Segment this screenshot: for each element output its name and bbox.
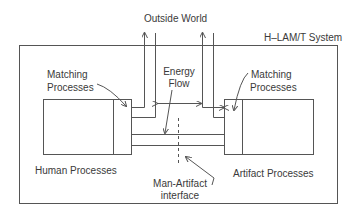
matching-left-label-1: Matching	[47, 69, 88, 81]
outside-world-label: Outside World	[144, 13, 207, 25]
energy-label-2: Flow	[158, 78, 200, 90]
interface-label-1: Man-Artifact	[140, 178, 220, 190]
human-processes-label: Human Processes	[35, 165, 117, 177]
system-title: H–LAM/T System	[264, 32, 342, 44]
matching-left-leader	[97, 84, 126, 106]
matching-left-label-2: Processes	[47, 82, 94, 94]
interface-label-2: interface	[140, 190, 220, 202]
matching-right-leader	[234, 73, 248, 110]
energy-label-1: Energy	[158, 66, 200, 78]
artifact-box	[225, 100, 314, 155]
human-box	[44, 100, 132, 155]
artifact-processes-label: Artifact Processes	[233, 168, 314, 180]
human-outside-arrow	[132, 33, 145, 108]
energy-flow-leader	[165, 90, 172, 133]
matching-right-label-1: Matching	[251, 69, 292, 81]
matching-right-label-2: Processes	[250, 82, 297, 94]
